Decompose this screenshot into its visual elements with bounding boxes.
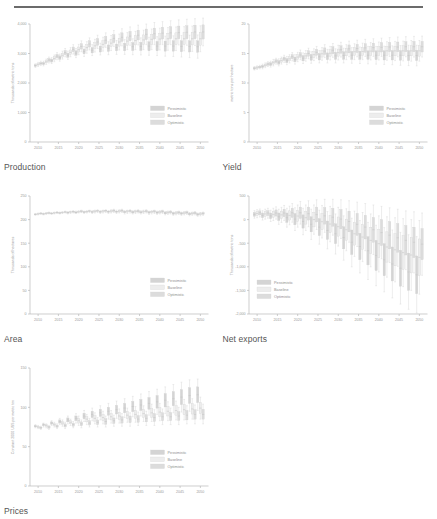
chart-yield: 0510152020102015202020252030203520402045… xyxy=(219,12,437,162)
boxplot-net_exports-optimistic-2046 xyxy=(404,211,406,270)
svg-text:50: 50 xyxy=(23,445,27,449)
boxplot-area-baseline-2018 xyxy=(69,211,71,213)
boxplot-net_exports-optimistic-2042 xyxy=(388,208,390,263)
boxplot-area-pessimistic-2042 xyxy=(164,212,166,215)
boxplot-net_exports-optimistic-2050 xyxy=(420,213,422,275)
boxplot-production-baseline-2044 xyxy=(175,27,177,51)
boxplot-prices-baseline-2014 xyxy=(53,422,55,427)
boxplot-net_exports-pessimistic-2050 xyxy=(415,237,417,313)
svg-text:4,000: 4,000 xyxy=(18,22,27,26)
boxplot-area-optimistic-2010 xyxy=(40,213,42,215)
boxplot-net_exports-pessimistic-2012 xyxy=(261,211,263,220)
boxplot-production-pessimistic-2012 xyxy=(42,61,44,66)
boxplot-yield-baseline-2026 xyxy=(320,48,322,61)
svg-text:0: 0 xyxy=(25,484,27,488)
svg-text:2015: 2015 xyxy=(273,146,281,150)
boxplot-net_exports-baseline-2050 xyxy=(418,221,420,295)
boxplot-yield-pessimistic-2038 xyxy=(366,46,368,63)
boxplot-area-baseline-2036 xyxy=(142,210,144,213)
boxplot-area-optimistic-2046 xyxy=(186,211,188,214)
panel-row-2: 0501001502002502010201520202025203020352… xyxy=(0,184,437,356)
boxplot-net_exports-pessimistic-2036 xyxy=(358,221,360,273)
svg-text:Thousands of hectares: Thousands of hectares xyxy=(11,237,15,274)
boxplot-production-pessimistic-2036 xyxy=(140,38,142,55)
boxplot-yield-baseline-2022 xyxy=(304,51,306,62)
boxplot-yield-baseline-2050 xyxy=(418,41,420,62)
legend-label-pessimistic: Pessimistic xyxy=(386,107,405,111)
boxplot-net_exports-pessimistic-2018 xyxy=(285,208,287,227)
boxplot-production-baseline-2014 xyxy=(53,55,55,62)
boxplot-yield-optimistic-2034 xyxy=(356,40,358,57)
boxplot-production-baseline-2030 xyxy=(118,34,120,50)
svg-text:100: 100 xyxy=(21,265,27,269)
boxplot-net_exports-pessimistic-2022 xyxy=(301,208,303,234)
boxplot-area-optimistic-2032 xyxy=(129,210,131,213)
svg-text:2035: 2035 xyxy=(136,490,144,494)
boxplot-area-baseline-2048 xyxy=(191,212,193,215)
boxplot-production-optimistic-2050 xyxy=(202,18,204,46)
boxplot-prices-pessimistic-2034 xyxy=(132,396,134,416)
boxplot-prices-pessimistic-2026 xyxy=(99,406,101,420)
boxplot-area-baseline-2044 xyxy=(175,212,177,215)
boxplot-net_exports-pessimistic-2034 xyxy=(350,218,352,267)
boxplot-production-baseline-2048 xyxy=(191,26,193,51)
boxplot-net_exports-pessimistic-2024 xyxy=(310,209,312,239)
boxplot-area-pessimistic-2040 xyxy=(156,211,158,214)
boxplot-yield-optimistic-2040 xyxy=(380,38,382,56)
boxplot-net_exports-optimistic-2018 xyxy=(291,204,293,223)
boxplot-net_exports-baseline-2020 xyxy=(296,205,298,227)
boxplot-yield-baseline-2012 xyxy=(264,63,266,68)
svg-text:2045: 2045 xyxy=(395,146,403,150)
boxplot-yield-pessimistic-2042 xyxy=(383,46,385,64)
boxplot-prices-optimistic-2050 xyxy=(202,404,204,424)
boxplot-production-optimistic-2014 xyxy=(56,53,58,60)
boxplot-yield-optimistic-2036 xyxy=(364,39,366,56)
boxplot-area-optimistic-2020 xyxy=(80,210,82,212)
boxplot-net_exports-pessimistic-2026 xyxy=(318,210,320,244)
boxplot-yield-pessimistic-2024 xyxy=(310,52,312,64)
header-rule xyxy=(14,6,423,8)
svg-text:2015: 2015 xyxy=(54,146,62,150)
legend-swatch-pessimistic xyxy=(151,450,165,455)
legend-swatch-optimistic xyxy=(257,294,271,299)
svg-text:2050: 2050 xyxy=(415,146,423,150)
boxplot-yield-pessimistic-2016 xyxy=(277,59,279,66)
boxplot-net_exports-optimistic-2016 xyxy=(283,205,285,220)
boxplot-yield-optimistic-2032 xyxy=(347,41,349,57)
svg-text:2020: 2020 xyxy=(75,146,83,150)
boxplot-yield-pessimistic-2046 xyxy=(399,46,401,66)
boxplot-area-pessimistic-2036 xyxy=(140,211,142,214)
boxplot-net_exports-optimistic-2010 xyxy=(258,209,260,217)
boxplot-production-pessimistic-2038 xyxy=(148,37,150,55)
panel-production: 01,0002,0003,0004,0002010201520202025203… xyxy=(0,12,219,184)
boxplot-prices-optimistic-2022 xyxy=(88,418,90,427)
boxplot-yield-optimistic-2030 xyxy=(339,42,341,57)
panel-prices: 0501001502010201520202025203020352040204… xyxy=(0,356,219,519)
panel-grid: 01,0002,0003,0004,0002010201520202025203… xyxy=(0,12,437,519)
boxplot-prices-pessimistic-2038 xyxy=(148,392,150,416)
boxplot-net_exports-pessimistic-2020 xyxy=(293,208,295,231)
boxplot-production-optimistic-2030 xyxy=(121,29,123,46)
boxplot-production-baseline-2034 xyxy=(134,31,136,49)
boxplot-yield-baseline-2036 xyxy=(361,43,363,60)
caption-net-exports: Net exports xyxy=(219,334,437,344)
legend-swatch-pessimistic xyxy=(369,106,383,111)
svg-text:0: 0 xyxy=(243,218,245,222)
svg-text:500: 500 xyxy=(239,194,245,198)
boxplot-production-pessimistic-2018 xyxy=(67,51,69,59)
boxplot-net_exports-baseline-2018 xyxy=(288,206,290,225)
boxplot-area-pessimistic-2014 xyxy=(50,213,52,215)
svg-text:2010: 2010 xyxy=(34,318,42,322)
boxplot-area-baseline-2022 xyxy=(86,211,88,213)
legend-label-pessimistic: Pessimistic xyxy=(274,281,293,285)
boxplot-net_exports-optimistic-2014 xyxy=(274,207,276,219)
boxplot-net_exports-baseline-2040 xyxy=(377,216,379,272)
panel-net-exports: 5000-500-1,000-1,500-2,00020102015202020… xyxy=(219,184,437,356)
boxplot-production-pessimistic-2044 xyxy=(172,36,174,57)
boxplot-prices-optimistic-2026 xyxy=(105,416,107,427)
boxplot-yield-baseline-2034 xyxy=(353,44,355,60)
svg-text:2035: 2035 xyxy=(354,146,362,150)
legend-label-optimistic: Optimistic xyxy=(168,293,185,297)
boxplot-area-optimistic-2022 xyxy=(88,210,90,212)
boxplot-production-pessimistic-2026 xyxy=(99,43,101,55)
